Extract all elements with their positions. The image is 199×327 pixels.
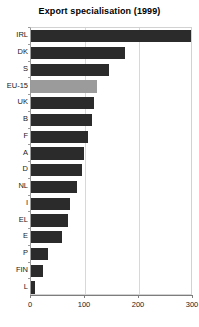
x-axis-label: 0 bbox=[18, 300, 42, 309]
bar-i bbox=[31, 198, 70, 210]
y-axis-tick bbox=[28, 144, 30, 145]
x-axis-tick bbox=[192, 295, 193, 298]
y-axis-label: DK bbox=[0, 47, 28, 56]
bar-e bbox=[31, 231, 62, 243]
bar-nl bbox=[31, 181, 77, 193]
bar-irl bbox=[31, 30, 191, 42]
y-axis-tick bbox=[28, 77, 30, 78]
y-axis-tick bbox=[28, 278, 30, 279]
y-axis-label: S bbox=[0, 64, 28, 73]
y-axis-label: EU-15 bbox=[0, 81, 28, 90]
y-axis-labels: IRLDKSEU-15UKBFADNLIELEPFINL bbox=[0, 27, 28, 295]
bar-uk bbox=[31, 97, 94, 109]
y-axis-tick bbox=[28, 27, 30, 28]
y-axis-label: A bbox=[0, 148, 28, 157]
y-axis-tick bbox=[28, 211, 30, 212]
y-axis-label: NL bbox=[0, 181, 28, 190]
bar-d bbox=[31, 164, 82, 176]
plot-area bbox=[30, 27, 192, 295]
x-axis-line bbox=[30, 295, 192, 296]
y-axis-tick bbox=[28, 61, 30, 62]
bar-b bbox=[31, 114, 92, 126]
bar-s bbox=[31, 64, 109, 76]
x-axis-tick bbox=[138, 295, 139, 298]
y-axis-tick bbox=[28, 94, 30, 95]
y-axis-label: UK bbox=[0, 97, 28, 106]
y-axis-label: IRL bbox=[0, 30, 28, 39]
bar-eu-15 bbox=[31, 80, 97, 92]
y-axis-label: EL bbox=[0, 215, 28, 224]
y-axis-label: I bbox=[0, 198, 28, 207]
y-axis-tick bbox=[28, 44, 30, 45]
bar-fin bbox=[31, 265, 43, 277]
y-axis-tick bbox=[28, 111, 30, 112]
y-axis-tick bbox=[28, 128, 30, 129]
y-axis-tick bbox=[28, 228, 30, 229]
bar-f bbox=[31, 131, 88, 143]
bar-el bbox=[31, 214, 68, 226]
y-axis-label: E bbox=[0, 231, 28, 240]
y-axis-label: FIN bbox=[0, 265, 28, 274]
y-axis-label: L bbox=[0, 282, 28, 291]
y-axis-tick bbox=[28, 245, 30, 246]
y-axis-label: D bbox=[0, 164, 28, 173]
x-axis-tick bbox=[84, 295, 85, 298]
y-axis-tick bbox=[28, 195, 30, 196]
bars-layer bbox=[31, 28, 191, 294]
bar-l bbox=[31, 281, 35, 293]
y-axis-tick bbox=[28, 161, 30, 162]
bar-p bbox=[31, 248, 48, 260]
y-axis-label: B bbox=[0, 114, 28, 123]
chart-title: Export specialisation (1999) bbox=[0, 6, 199, 17]
y-axis-label: F bbox=[0, 131, 28, 140]
y-axis-tick bbox=[28, 262, 30, 263]
x-axis-tick bbox=[30, 295, 31, 298]
y-axis-tick bbox=[28, 178, 30, 179]
bar-a bbox=[31, 147, 84, 159]
y-axis-label: P bbox=[0, 248, 28, 257]
x-axis-label: 300 bbox=[180, 300, 199, 309]
x-axis-label: 100 bbox=[72, 300, 96, 309]
x-axis-label: 200 bbox=[126, 300, 150, 309]
chart-container: Export specialisation (1999) IRLDKSEU-15… bbox=[0, 0, 199, 327]
bar-dk bbox=[31, 47, 125, 59]
